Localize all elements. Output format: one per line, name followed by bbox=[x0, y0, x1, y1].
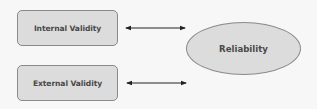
connector-arrows bbox=[0, 0, 317, 109]
